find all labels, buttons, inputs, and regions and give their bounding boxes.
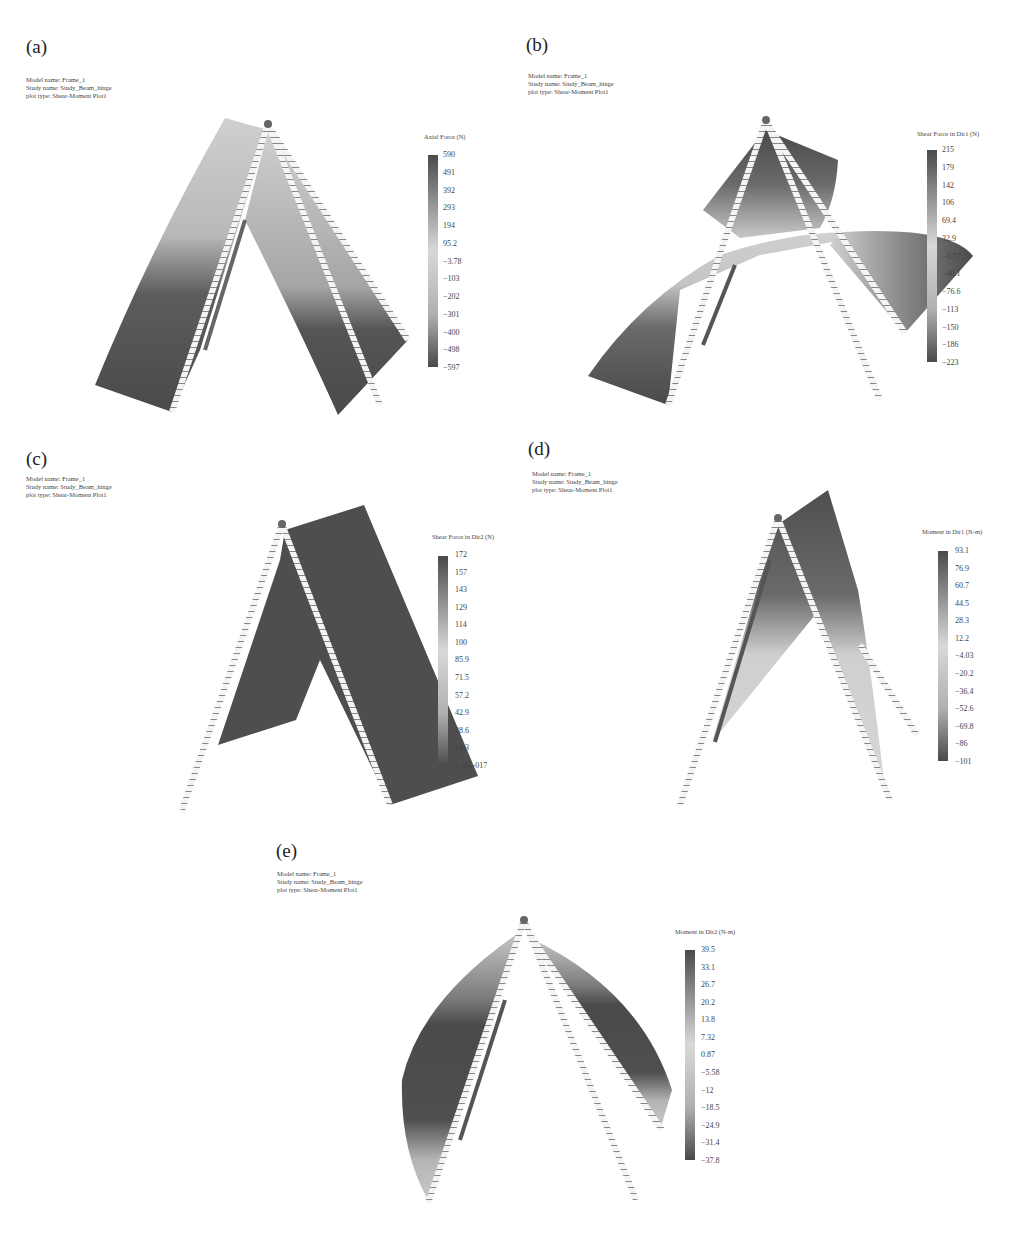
legend-title: Moment in Dir2 (N-m) xyxy=(675,928,735,935)
frame-diagram xyxy=(0,0,1035,1234)
legend-ticks: 39.533.126.720.213.87.320.87−5.58−12−18.… xyxy=(701,945,720,1165)
panel-e: (e) Model name: Frame_1 Study name: Stud… xyxy=(0,0,1035,1234)
color-bar xyxy=(685,950,695,1160)
